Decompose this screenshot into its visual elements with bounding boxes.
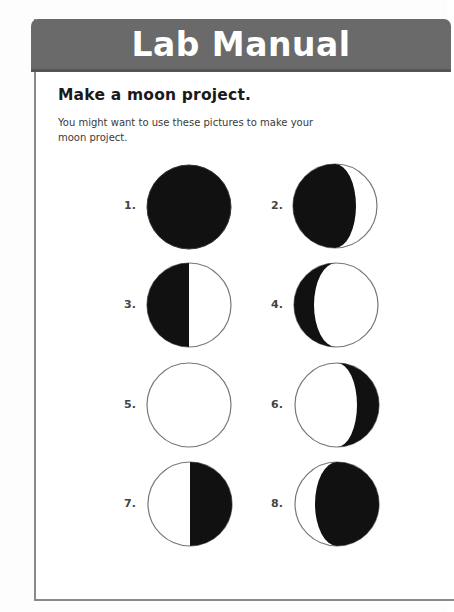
header-banner: Lab Manual: [31, 19, 451, 72]
moon-waxing-crescent-icon: [291, 162, 379, 250]
moon-label-5: 5.: [124, 398, 136, 411]
moon-waxing-gibbous-icon: [292, 261, 380, 349]
moon-label-7: 7.: [124, 497, 136, 510]
moon-label-4: 4.: [271, 298, 283, 311]
moon-label-1: 1.: [124, 199, 136, 212]
moon-new-moon-icon: [145, 163, 233, 251]
moon-label-3: 3.: [124, 298, 136, 311]
moon-last-quarter-icon: [146, 460, 234, 548]
moon-full-moon-icon: [145, 361, 233, 449]
moon-waning-crescent-icon: [293, 460, 381, 548]
moon-label-6: 6.: [271, 398, 283, 411]
moon-label-8: 8.: [271, 497, 283, 510]
moon-waning-gibbous-icon: [293, 361, 381, 449]
activity-heading: Make a moon project.: [58, 86, 251, 104]
activity-instructions: You might want to use these pictures to …: [58, 115, 318, 145]
moon-label-2: 2.: [271, 199, 283, 212]
page-title: Lab Manual: [31, 24, 451, 66]
content-frame: [34, 19, 454, 601]
moon-first-quarter-icon: [145, 261, 233, 349]
